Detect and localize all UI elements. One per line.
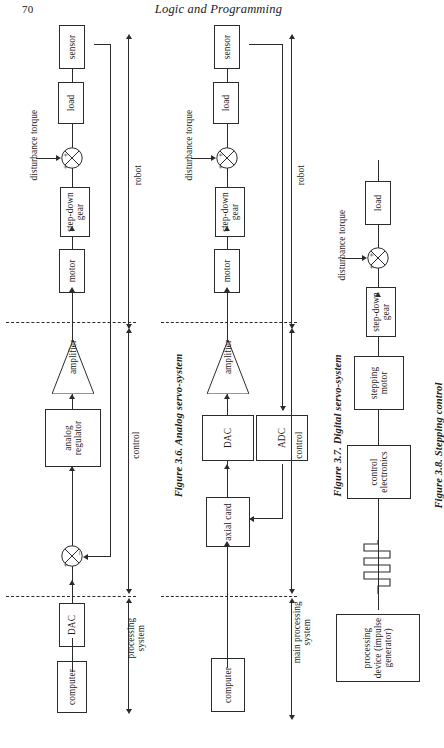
- bracket-control-arrow-top: [289, 328, 295, 333]
- block-amplifier-label: amplifier: [68, 336, 78, 378]
- block-computer: computer: [211, 658, 245, 712]
- block-axial-card: axial card: [206, 497, 250, 547]
- arrow-into-amplifier: [224, 394, 230, 399]
- arrow-into-error-junction: [69, 580, 75, 585]
- arrow-into-regulator: [69, 466, 75, 471]
- label-control: control: [131, 415, 141, 475]
- disturbance-torque-line: [191, 158, 213, 159]
- block-load: load: [365, 181, 391, 225]
- block-sensor: sensor: [214, 25, 240, 69]
- bracket-control-line: [128, 330, 129, 592]
- bracket-processing-arrow-bottom: [126, 709, 132, 714]
- block-amplifier-label: amplifier: [223, 336, 233, 378]
- label-processing-system: processing system: [126, 606, 146, 670]
- arrow-into-motor: [224, 287, 230, 292]
- bracket-main-processing-arrow-bottom: [289, 715, 295, 720]
- arrow-into-amplifier: [69, 394, 75, 399]
- disturbance-torque-arrowhead: [56, 155, 61, 161]
- block-step-down-gear: step-down gear: [215, 187, 245, 237]
- label-control: control: [294, 415, 304, 475]
- boundary-divider-processing: [6, 596, 136, 597]
- disturbance-torque-arrowhead: [211, 155, 216, 161]
- adc-to-axialcard-vertical: [282, 464, 283, 518]
- arrow-into-dac: [224, 464, 230, 469]
- block-load: load: [213, 82, 239, 124]
- sum-sign-plus-b: +: [62, 165, 70, 170]
- arrow-into-summing: [375, 292, 381, 297]
- figure-3-8-stepping-control: load + + disturbance torque step-down ge…: [320, 0, 437, 748]
- block-load: load: [58, 82, 84, 124]
- sensor-to-adc-line: [282, 44, 283, 410]
- block-sensor: sensor: [59, 25, 85, 69]
- sum-sign-plus-a: +: [217, 153, 225, 158]
- label-disturbance-torque: disturbance torque: [337, 209, 347, 281]
- computer-to-dac-line: [72, 638, 73, 672]
- label-disturbance-torque: disturbance torque: [29, 109, 39, 181]
- feedback-path-horizontal: [85, 556, 111, 557]
- bracket-control-arrow-bottom: [126, 589, 132, 594]
- arrow-into-axial-card: [224, 541, 230, 546]
- block-analog-regulator: analog regulator: [45, 409, 101, 467]
- block-step-down-gear: step-down gear: [60, 187, 90, 237]
- bracket-control-line: [291, 330, 292, 592]
- bracket-processing-arrow-top: [126, 598, 132, 603]
- block-processing-device: processing device (impulse generator): [336, 614, 420, 682]
- arrow-into-motor: [69, 287, 75, 292]
- sum-sign-plus-a: +: [368, 253, 376, 258]
- feedback-path-vertical: [110, 44, 111, 556]
- arrow-into-gear: [224, 226, 230, 231]
- boundary-divider-robot-control: [161, 322, 297, 323]
- boundary-divider-main-processing: [161, 596, 297, 597]
- sum-sign-plus: +: [62, 563, 70, 568]
- feedback-arrowhead: [83, 554, 88, 560]
- block-dac: DAC: [202, 415, 254, 461]
- bracket-control-arrow-top: [126, 328, 132, 333]
- adc-to-axialcard-horizontal: [251, 518, 283, 519]
- block-step-down-gear: step-down gear: [366, 287, 396, 337]
- disturbance-torque-line: [36, 158, 58, 159]
- arrow-into-adc: [280, 406, 286, 411]
- sensor-output-tap: [94, 44, 111, 45]
- sum-sign-plus-b: +: [368, 265, 376, 270]
- figure-3-7-digital-servo-system: sensor load + + disturbance torque step-…: [155, 0, 315, 748]
- arrow-into-gear: [69, 226, 75, 231]
- sum-sign-plus-b: +: [217, 165, 225, 170]
- boundary-divider-robot-control: [6, 322, 136, 323]
- label-main-processing-system: main processing system: [292, 593, 312, 671]
- bracket-robot-line: [291, 36, 292, 328]
- label-disturbance-torque: disturbance torque: [184, 109, 194, 181]
- block-stepping-motor: stepping motor: [354, 356, 404, 410]
- bracket-robot-arrow-top: [126, 34, 132, 39]
- sum-sign-minus: –: [75, 551, 83, 555]
- figure-3-8-caption: Figure 3.8. Stepping control: [433, 356, 444, 536]
- label-robot: robot: [133, 145, 143, 205]
- bracket-robot-line: [128, 36, 129, 328]
- disturbance-torque-arrowhead: [362, 255, 367, 261]
- block-control-electronics: control electronics: [347, 445, 411, 499]
- sensor-output-tap: [249, 44, 283, 45]
- pulse-train-waveform: [360, 540, 396, 594]
- computer-to-axial-card-line: [227, 600, 228, 668]
- figure-3-6-analog-servo-system: sensor load + + disturbance torque step-…: [0, 0, 160, 748]
- bracket-robot-arrow-top: [289, 34, 295, 39]
- sum-sign-plus-a: +: [62, 153, 70, 158]
- label-robot: robot: [296, 145, 306, 205]
